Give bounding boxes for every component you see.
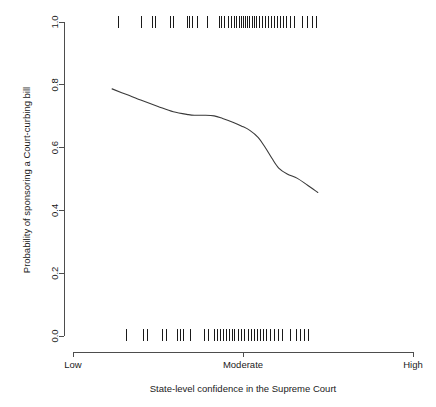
x-axis: LowModerateHigh	[64, 352, 422, 370]
x-axis-tick-labels: LowModerateHigh	[64, 359, 422, 370]
chart-canvas: 0.00.20.40.60.81.0 LowModerateHigh State…	[0, 0, 436, 407]
y-tick-label: 1.0	[49, 15, 60, 28]
y-tick-label: 0.4	[49, 204, 60, 217]
y-tick-label: 0.0	[49, 329, 60, 342]
x-axis-title: State-level confidence in the Supreme Co…	[150, 383, 337, 394]
y-tick-label: 0.6	[49, 141, 60, 154]
x-tick-label: Moderate	[223, 359, 263, 370]
plot-svg: 0.00.20.40.60.81.0 LowModerateHigh State…	[0, 0, 436, 407]
y-tick-label: 0.8	[49, 78, 60, 91]
y-axis: 0.00.20.40.60.81.0	[49, 15, 64, 342]
fitted-probability-curve	[112, 89, 318, 193]
x-tick-label: High	[403, 359, 423, 370]
y-axis-tick-labels: 0.00.20.40.60.81.0	[49, 15, 60, 342]
rug-marks-top	[118, 16, 317, 28]
y-axis-ticks	[59, 22, 64, 336]
y-tick-label: 0.2	[49, 267, 60, 280]
x-axis-ticks	[73, 352, 413, 357]
rug-marks-bottom	[127, 329, 309, 341]
x-tick-label: Low	[64, 359, 82, 370]
y-axis-title: Probability of sponsoring a Court-curbin…	[21, 87, 32, 273]
